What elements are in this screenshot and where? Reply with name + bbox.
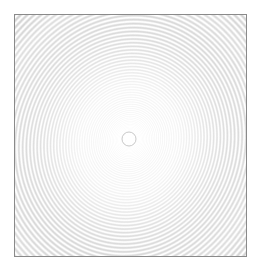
plot-frame (14, 14, 247, 257)
figure-root (0, 0, 261, 273)
concentric-rings-pattern (15, 15, 246, 256)
